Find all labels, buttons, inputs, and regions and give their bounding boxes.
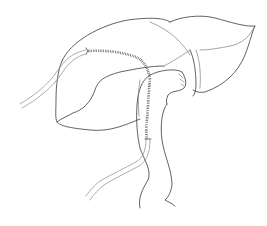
medical-illustration <box>0 0 267 226</box>
right-lobe <box>170 16 255 96</box>
descending-limb <box>137 75 175 208</box>
pouch <box>150 70 186 104</box>
upper-tube <box>20 50 86 108</box>
suture-end-top <box>86 48 88 54</box>
suture-line <box>86 48 150 139</box>
pouch-sutures <box>179 74 184 86</box>
lower-tube <box>86 139 151 200</box>
main-organ <box>56 18 190 130</box>
